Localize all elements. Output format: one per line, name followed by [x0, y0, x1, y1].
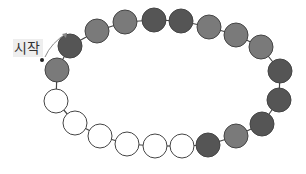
bead-white — [88, 124, 112, 148]
bead-medium — [85, 19, 109, 43]
bead-ring — [44, 8, 292, 158]
bead-medium — [224, 23, 248, 47]
bead-medium — [113, 10, 137, 34]
bead-white — [170, 134, 194, 158]
bead-dark — [250, 112, 274, 136]
bead-medium — [249, 35, 273, 59]
bead-dark — [142, 8, 166, 32]
bead-dark — [268, 59, 292, 83]
bead-white — [143, 134, 167, 158]
bead-dark — [169, 9, 193, 33]
bead-white — [44, 89, 68, 113]
bead-dark — [196, 133, 220, 157]
bead-dark — [267, 88, 291, 112]
bead-medium — [197, 15, 221, 39]
start-label: 시작 — [14, 38, 40, 58]
bead-ring-diagram — [0, 0, 306, 174]
bead-white — [63, 111, 87, 135]
start-dot — [40, 58, 44, 62]
bead-white — [115, 132, 139, 156]
bead-dark — [58, 34, 82, 58]
bead-medium — [45, 58, 69, 82]
bead-medium — [224, 124, 248, 148]
